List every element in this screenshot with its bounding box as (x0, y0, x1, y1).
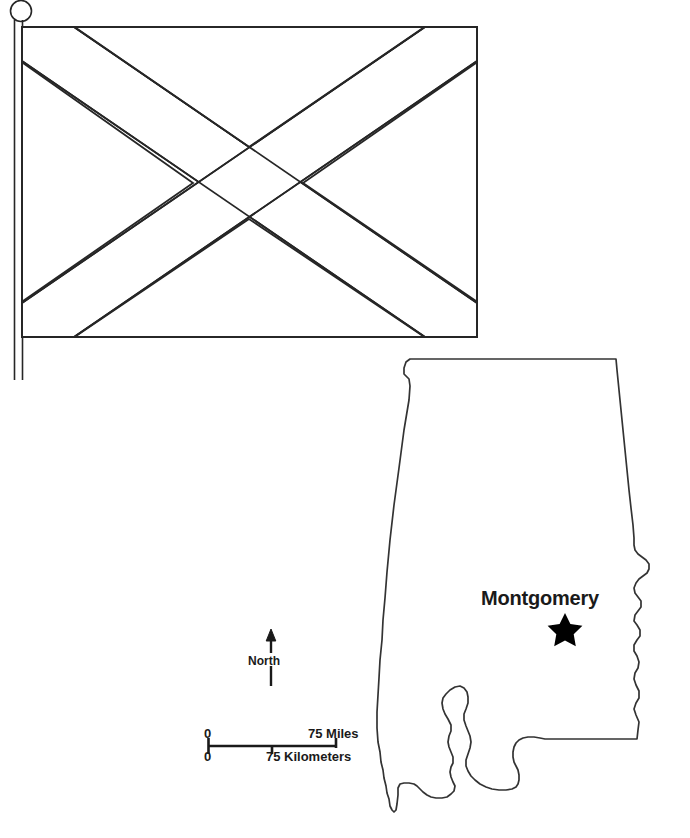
scale-kilometers-start-label: 0 (204, 750, 211, 763)
map-page: Montgomery North 0 75 Miles 0 75 Ki (0, 0, 690, 838)
scale-bar-graphic (0, 0, 690, 838)
scale-miles-end-label: 75 Miles (308, 727, 359, 740)
scale-kilometers-end-label: 75 Kilometers (266, 750, 351, 763)
scale-miles-start-label: 0 (204, 727, 211, 740)
